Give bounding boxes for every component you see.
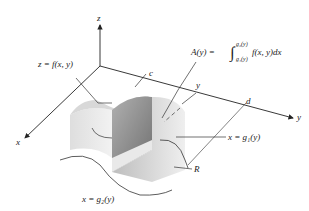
volume-diagram: z x y z = f(x, y) A(y) = ∫ g₂(y) g₁(y) f… [0,0,309,211]
area-lhs-label: A(y) = [190,47,215,57]
curve-g2-label: x = g₂(y) [81,194,114,204]
d-label: d [246,96,251,106]
y-slice-label: y [195,80,200,90]
x-axis-label: x [15,137,20,147]
curve-g1-label: x = g₁(y) [227,132,260,142]
surface-label: z = f(x, y) [37,59,73,69]
y-axis-label: y [296,112,301,122]
leader-surface [76,78,112,103]
region-label: R [193,164,200,174]
integral-upper-limit: g₂(y) [236,41,248,48]
y-slice-line [182,93,196,104]
z-axis-label: z [96,13,101,23]
integral-sign: ∫ [229,44,236,63]
integrand-label: f(x, y)dx [252,47,281,57]
solid-left-face [70,108,112,158]
c-label: c [149,68,153,78]
integral-lower-limit: g₁(y) [236,56,248,63]
solid [70,96,185,182]
